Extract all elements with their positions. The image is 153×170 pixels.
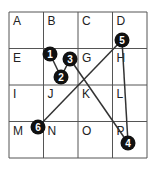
cell-label: N: [48, 124, 57, 138]
cell-label: E: [13, 51, 21, 65]
cell-label: G: [82, 51, 91, 65]
path-segment: [70, 59, 128, 143]
point-number: 1: [47, 49, 53, 60]
grid-diagram: ABCDEGHIJKLMNOP123456: [0, 0, 153, 170]
cell-label: D: [117, 14, 126, 28]
point-number: 3: [67, 54, 73, 65]
cell-label: J: [48, 87, 54, 101]
point-number: 2: [58, 72, 64, 83]
cell-label: M: [13, 124, 23, 138]
cell-label: O: [82, 124, 91, 138]
cell-label: A: [13, 14, 21, 28]
cell-label: B: [48, 14, 56, 28]
cell-label: K: [82, 87, 90, 101]
cell-label: L: [117, 87, 124, 101]
point-number: 4: [125, 138, 131, 149]
cell-label: I: [13, 87, 16, 101]
point-number: 6: [35, 122, 41, 133]
cell-label: C: [82, 14, 91, 28]
point-number: 5: [119, 35, 125, 46]
